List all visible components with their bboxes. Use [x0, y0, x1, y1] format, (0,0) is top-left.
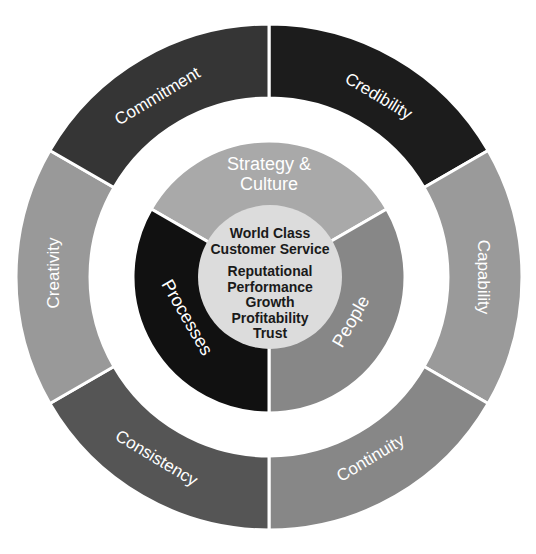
core-value-performance: Performance	[227, 279, 313, 295]
core-value-growth: Growth	[246, 294, 295, 310]
middle-label-strategy-line1: Strategy &	[227, 154, 311, 174]
outer-label-capability: Capability	[474, 240, 493, 315]
core-value-reputational: Reputational	[228, 263, 313, 279]
outer-segment-capability	[424, 151, 522, 404]
core-value-trust: Trust	[253, 325, 288, 341]
outer-segment-creativity	[16, 151, 114, 404]
middle-label-strategy-line2: Culture	[240, 174, 298, 194]
core-heading-line2: Customer Service	[210, 241, 329, 257]
outer-label-creativity: Creativity	[44, 237, 63, 308]
core-heading-line1: World Class	[230, 225, 311, 241]
core-value-profitability: Profitability	[231, 310, 308, 326]
service-wheel-diagram: Credibility Capability Continuity Consis…	[0, 0, 536, 554]
